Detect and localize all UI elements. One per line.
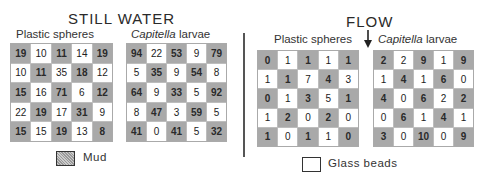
mud-cell: 12 xyxy=(93,83,112,102)
glass-cell: 9 xyxy=(147,83,166,102)
flow-title: FLOW xyxy=(346,13,393,30)
glass-cell: 17 xyxy=(52,103,71,122)
mud-cell: 1 xyxy=(339,51,358,69)
glass-cell: 1 xyxy=(258,70,277,88)
glass-cell: 1 xyxy=(414,70,433,88)
mud-cell: 35 xyxy=(147,64,166,83)
still-plastic-label: Plastic spheres xyxy=(16,28,94,40)
glass-cell: 22 xyxy=(11,103,30,122)
mud-cell: 6 xyxy=(394,109,413,127)
glass-legend-swatch xyxy=(302,157,321,172)
glass-cell: 12 xyxy=(93,64,112,83)
mud-cell: 59 xyxy=(187,103,206,122)
mud-cell: 3 xyxy=(374,128,393,146)
mud-cell: 6 xyxy=(434,70,453,88)
glass-cell: 13 xyxy=(72,122,91,141)
mud-cell: 1 xyxy=(278,70,297,88)
glass-cell: 8 xyxy=(207,64,226,83)
mud-cell: 19 xyxy=(93,44,112,63)
flow-plastic-label: Plastic spheres xyxy=(274,33,352,45)
mud-cell: 64 xyxy=(127,83,146,102)
mud-cell: 9 xyxy=(414,51,433,69)
mud-cell: 47 xyxy=(147,103,166,122)
glass-cell: 1 xyxy=(258,109,277,127)
glass-cell: 0 xyxy=(454,70,473,88)
mud-cell: 4 xyxy=(319,70,338,88)
mud-cell: 2 xyxy=(278,109,297,127)
down-arrow-icon xyxy=(363,30,373,48)
glass-cell: 1 xyxy=(278,89,297,107)
glass-cell: 9 xyxy=(187,44,206,63)
mud-cell: 6 xyxy=(414,89,433,107)
mud-cell: 18 xyxy=(72,64,91,83)
still-water-title: STILL WATER xyxy=(68,10,175,27)
mud-cell: 1 xyxy=(298,51,317,69)
mud-cell: 9 xyxy=(454,51,473,69)
mud-cell: 10 xyxy=(414,128,433,146)
mud-cell: 15 xyxy=(11,122,30,141)
mud-cell: 41 xyxy=(167,122,186,141)
glass-cell: 5 xyxy=(187,122,206,141)
mud-cell: 1 xyxy=(258,128,277,146)
glass-cell: 6 xyxy=(72,83,91,102)
mud-cell: 15 xyxy=(11,83,30,102)
glass-cell: 0 xyxy=(147,122,166,141)
glass-cell: 2 xyxy=(434,89,453,107)
glass-cell: 8 xyxy=(127,103,146,122)
glass-cell: 1 xyxy=(454,109,473,127)
flow-capitella-grid: 22919141604062206141301009 xyxy=(373,50,474,147)
glass-cell: 1 xyxy=(434,51,453,69)
glass-cell: 16 xyxy=(31,83,50,102)
flow-capitella-label: Capitella larvae xyxy=(378,33,457,45)
mud-cell: 4 xyxy=(434,109,453,127)
mud-cell: 94 xyxy=(127,44,146,63)
mud-cell: 19 xyxy=(31,103,50,122)
mud-cell: 8 xyxy=(93,122,112,141)
mud-cell: 0 xyxy=(258,51,277,69)
glass-cell: 7 xyxy=(298,70,317,88)
section-divider xyxy=(243,33,245,157)
mud-cell: 0 xyxy=(258,89,277,107)
mud-cell: 2 xyxy=(374,51,393,69)
glass-cell: 0 xyxy=(278,128,297,146)
mud-legend-label: Mud xyxy=(83,151,107,163)
glass-cell: 0 xyxy=(374,109,393,127)
mud-cell: 41 xyxy=(127,122,146,141)
glass-cell: 15 xyxy=(31,122,50,141)
mud-cell: 3 xyxy=(298,89,317,107)
mud-cell: 1 xyxy=(298,128,317,146)
mud-cell: 1 xyxy=(339,89,358,107)
glass-cell: 10 xyxy=(31,44,50,63)
glass-cell: 0 xyxy=(394,89,413,107)
glass-cell: 0 xyxy=(339,109,358,127)
mud-cell: 31 xyxy=(72,103,91,122)
mud-cell: 19 xyxy=(52,122,71,141)
mud-cell: 2 xyxy=(454,89,473,107)
mud-cell: 9 xyxy=(454,128,473,146)
mud-cell: 0 xyxy=(339,128,358,146)
mud-cell: 79 xyxy=(207,44,226,63)
glass-cell: 9 xyxy=(167,64,186,83)
glass-cell: 5 xyxy=(187,83,206,102)
glass-cell: 2 xyxy=(394,51,413,69)
still-capitella-grid: 942253979535954864933592847359541041532 xyxy=(126,43,227,142)
mud-cell: 32 xyxy=(207,122,226,141)
glass-legend-label: Glass beads xyxy=(328,157,397,169)
mud-cell: 2 xyxy=(319,109,338,127)
glass-cell: 0 xyxy=(434,128,453,146)
glass-cell: 0 xyxy=(394,128,413,146)
glass-cell: 5 xyxy=(207,103,226,122)
glass-cell: 1 xyxy=(319,128,338,146)
glass-cell: 1 xyxy=(414,109,433,127)
mud-cell: 11 xyxy=(31,64,50,83)
glass-cell: 14 xyxy=(72,44,91,63)
glass-cell: 5 xyxy=(127,64,146,83)
glass-cell: 5 xyxy=(319,89,338,107)
mud-cell: 54 xyxy=(187,64,206,83)
still-plastic-grid: 1910111419101135181215167161222191731915… xyxy=(10,43,113,142)
mud-cell: 71 xyxy=(52,83,71,102)
glass-cell: 1 xyxy=(278,51,297,69)
mud-cell: 92 xyxy=(207,83,226,102)
mud-cell: 11 xyxy=(52,44,71,63)
mud-cell: 19 xyxy=(11,44,30,63)
